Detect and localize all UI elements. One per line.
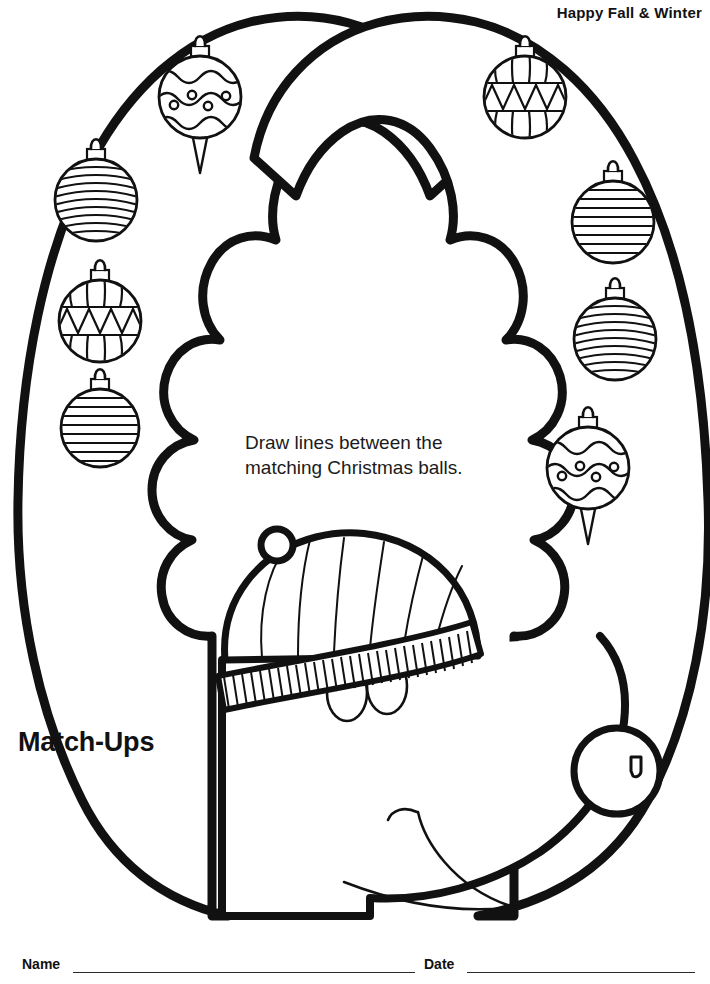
instructions-line-2: matching Christmas balls.	[245, 455, 510, 480]
reindeer-nose	[574, 728, 660, 814]
name-write-line[interactable]	[73, 972, 415, 973]
instructions-line-1: Draw lines between the	[245, 430, 510, 455]
page-title: Match-Ups	[18, 727, 154, 758]
page-header: Happy Fall & Winter	[557, 4, 702, 21]
worksheet-artwork	[0, 0, 710, 984]
worksheet-page: Happy Fall & Winter Draw lines between t…	[0, 0, 710, 984]
name-label: Name	[22, 956, 60, 972]
footer: Name Date	[0, 948, 710, 982]
date-write-line[interactable]	[467, 972, 695, 973]
date-label: Date	[424, 956, 454, 972]
instructions: Draw lines between the matching Christma…	[245, 430, 510, 480]
